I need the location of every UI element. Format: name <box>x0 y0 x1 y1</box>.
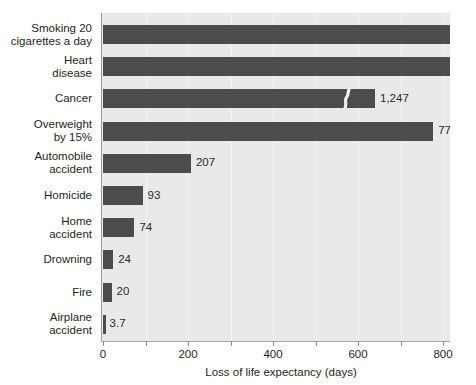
life-expectancy-bar-chart: 2,3701,6071,247777207937424203.7 Smoking… <box>0 0 476 385</box>
bar <box>103 283 112 302</box>
bar <box>103 89 375 108</box>
bar-value-label: 3.7 <box>110 319 126 331</box>
x-axis-tick-label: 800 <box>433 348 452 360</box>
x-axis-tick-label: 600 <box>348 348 367 360</box>
category-label-overweight-by-15-: Overweight by 15% <box>34 118 92 144</box>
plot-area: 2,3701,6071,247777207937424203.7 <box>101 13 450 341</box>
bar-value-label: 207 <box>196 158 215 170</box>
bar-value-label: 74 <box>139 222 152 234</box>
x-axis-tick <box>401 341 402 346</box>
x-axis-title-text: Loss of life expectancy (days) <box>119 366 357 378</box>
x-axis-tick <box>188 341 189 346</box>
bar <box>103 186 143 205</box>
category-label-drowning: Drowning <box>43 253 92 266</box>
bar <box>103 122 433 141</box>
x-axis-tick <box>273 341 274 346</box>
x-axis-tick <box>316 341 317 346</box>
category-label-home-accident: Home accident <box>49 215 92 241</box>
bar <box>103 218 134 237</box>
x-axis-tick-label: 0 <box>100 348 106 360</box>
plot-inner: 2,3701,6071,247777207937424203.7 <box>101 13 450 341</box>
x-axis-tick-label: 200 <box>178 348 197 360</box>
bar-value-label: 93 <box>148 190 161 202</box>
bar <box>103 315 106 334</box>
bar <box>103 154 191 173</box>
bar <box>103 25 450 44</box>
x-axis-tick <box>443 341 444 346</box>
category-label-smoking-20-cigarettes-a-day: Smoking 20 cigarettes a day <box>11 22 92 48</box>
bar-value-label: 777 <box>438 125 450 137</box>
category-label-homicide: Homicide <box>44 189 92 202</box>
x-axis-tick <box>103 341 104 346</box>
y-axis-line <box>101 13 102 342</box>
bar-value-label: 24 <box>118 254 131 266</box>
bar-value-label: 20 <box>117 286 130 298</box>
category-label-airplane-accident: Airplane accident <box>49 311 92 337</box>
x-axis-tick <box>231 341 232 346</box>
x-axis-title: Loss of life expectancy (days) <box>0 366 476 378</box>
bar <box>103 57 450 76</box>
bar <box>103 250 113 269</box>
category-label-fire: Fire <box>72 286 92 299</box>
category-label-automobile-accident: Automobile accident <box>34 150 92 176</box>
x-axis-tick <box>358 341 359 346</box>
x-axis-tick <box>146 341 147 346</box>
bar-value-label: 1,247 <box>380 93 409 105</box>
x-axis-line <box>101 341 450 342</box>
category-label-cancer: Cancer <box>55 92 92 105</box>
category-label-heart-disease: Heart disease <box>52 54 92 80</box>
x-axis-tick-label: 400 <box>263 348 282 360</box>
